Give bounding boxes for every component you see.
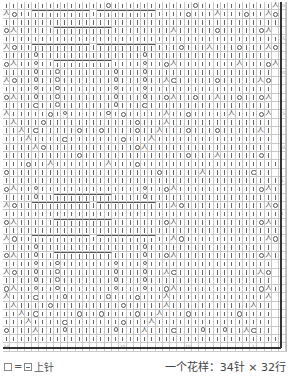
knit-stitch [192, 119, 199, 127]
knit-stitch [170, 227, 177, 235]
knit-stitch [148, 94, 155, 102]
knit-stitch [199, 10, 206, 18]
knit-stitch [170, 244, 177, 252]
knit-stitch [148, 44, 155, 52]
knit-stitch [76, 227, 83, 235]
knit-stitch [97, 260, 104, 268]
knit-stitch [68, 27, 75, 35]
knit-stitch [47, 202, 54, 210]
knit-stitch [76, 285, 83, 293]
knit-stitch [97, 252, 104, 260]
knit-stitch [127, 127, 134, 135]
knit-stitch [257, 335, 264, 343]
knit-stitch [134, 285, 141, 293]
knit-stitch [156, 252, 163, 260]
knit-stitch [250, 135, 257, 143]
knit-stitch [61, 94, 68, 102]
knit-stitch [257, 327, 264, 335]
knit-stitch [39, 2, 46, 10]
knit-stitch [163, 177, 170, 185]
yarn-over-stitch [156, 169, 163, 177]
yarn-over-stitch [272, 202, 279, 210]
knit-stitch [141, 235, 148, 243]
knit-stitch [163, 310, 170, 318]
yarn-over-stitch [185, 10, 192, 18]
knit-stitch [47, 60, 54, 68]
knit-stitch [47, 52, 54, 60]
knit-stitch [10, 310, 17, 318]
knit-stitch [32, 169, 39, 177]
knit-stitch [83, 335, 90, 343]
knit-stitch [192, 327, 199, 335]
knit-stitch [236, 302, 243, 310]
knit-stitch [156, 144, 163, 152]
knit-stitch [25, 19, 32, 27]
yarn-over-stitch [39, 119, 46, 127]
knit-stitch [257, 85, 264, 93]
knit-stitch [68, 252, 75, 260]
knit-stitch [177, 85, 184, 93]
knit-stitch [25, 119, 32, 127]
knit-stitch [265, 102, 272, 110]
knit-stitch [18, 194, 25, 202]
knit-stitch [119, 2, 126, 10]
knit-stitch [170, 318, 177, 326]
knit-stitch [68, 135, 75, 143]
knit-stitch [243, 102, 250, 110]
knit-stitch [39, 127, 46, 135]
k2tog-stitch: 人 [3, 235, 10, 243]
pattern-repeat-caption: 一个花样：34针 × 32行 [165, 358, 286, 374]
knit-stitch [97, 19, 104, 27]
knit-stitch [134, 244, 141, 252]
knit-stitch [221, 285, 228, 293]
knit-stitch [228, 127, 235, 135]
knit-stitch [83, 135, 90, 143]
knit-stitch [112, 185, 119, 193]
knit-stitch [228, 10, 235, 18]
knit-stitch [243, 277, 250, 285]
knit-stitch [265, 152, 272, 160]
knit-stitch [228, 102, 235, 110]
knit-stitch [185, 269, 192, 277]
knit-stitch [221, 2, 228, 10]
knit-stitch [47, 127, 54, 135]
knit-stitch [170, 110, 177, 118]
knit-stitch [177, 160, 184, 168]
k2tog-stitch: 人 [236, 60, 243, 68]
knit-stitch [25, 2, 32, 10]
knit-stitch [170, 135, 177, 143]
knit-stitch [105, 35, 112, 43]
knit-stitch [54, 219, 61, 227]
knit-stitch [3, 310, 10, 318]
knit-stitch [3, 152, 10, 160]
knit-stitch [272, 160, 279, 168]
yarn-over-stitch [76, 127, 83, 135]
knit-stitch [163, 327, 170, 335]
knit-stitch [257, 60, 264, 68]
twisted-stitch [32, 52, 39, 60]
knit-stitch [214, 19, 221, 27]
knit-stitch [236, 169, 243, 177]
knit-stitch [199, 244, 206, 252]
yarn-over-stitch [177, 235, 184, 243]
yarn-over-stitch [3, 27, 10, 35]
yarn-over-stitch [257, 285, 264, 293]
knit-stitch [236, 335, 243, 343]
knit-stitch [221, 252, 228, 260]
knit-stitch [47, 227, 54, 235]
knit-stitch [68, 94, 75, 102]
knit-stitch [192, 60, 199, 68]
k2tog-stitch: 人 [170, 235, 177, 243]
yarn-over-stitch [97, 310, 104, 318]
knit-stitch [18, 135, 25, 143]
knit-stitch [18, 293, 25, 301]
knit-stitch [192, 110, 199, 118]
knit-stitch [206, 185, 213, 193]
knit-stitch [148, 127, 155, 135]
knit-stitch [170, 160, 177, 168]
knit-stitch [105, 210, 112, 218]
knit-stitch [134, 194, 141, 202]
knit-stitch [54, 210, 61, 218]
knit-stitch [134, 227, 141, 235]
knit-stitch [39, 185, 46, 193]
